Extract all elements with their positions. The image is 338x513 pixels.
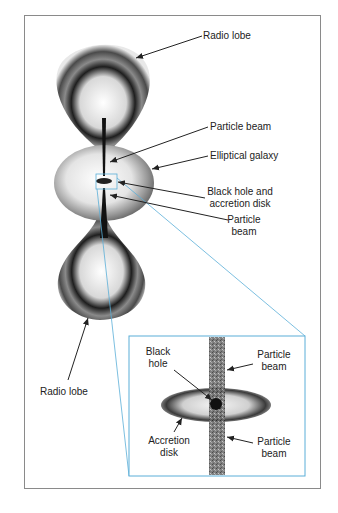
label-line: beam bbox=[224, 226, 264, 238]
label-line: Black bbox=[140, 346, 176, 358]
label-line: Black hole and bbox=[205, 186, 275, 198]
inset-label-black-hole: Black hole bbox=[140, 346, 176, 370]
label-particle-beam-top: Particle beam bbox=[210, 121, 271, 133]
black-hole-core bbox=[96, 178, 112, 184]
label-elliptical-galaxy: Elliptical galaxy bbox=[210, 150, 278, 162]
label-line: hole bbox=[140, 358, 176, 370]
inset-label-particle-beam-bottom: Particle beam bbox=[252, 436, 296, 460]
label-black-hole-and-accretion-disk: Black hole and accretion disk bbox=[205, 186, 275, 210]
label-radio-lobe-top: Radio lobe bbox=[203, 30, 251, 42]
label-line: beam bbox=[252, 361, 296, 373]
label-line: beam bbox=[252, 448, 296, 460]
label-line: Particle bbox=[252, 436, 296, 448]
inset-label-accretion-disk: Accretion disk bbox=[144, 435, 194, 459]
label-line: Particle bbox=[252, 349, 296, 361]
label-line: Particle bbox=[224, 214, 264, 226]
label-particle-beam-mid: Particle beam bbox=[224, 214, 264, 238]
label-line: disk bbox=[144, 447, 194, 459]
label-line: accretion disk bbox=[205, 198, 275, 210]
label-line: Accretion bbox=[144, 435, 194, 447]
label-radio-lobe-bottom: Radio lobe bbox=[40, 386, 88, 398]
inset-label-particle-beam-top: Particle beam bbox=[252, 349, 296, 373]
